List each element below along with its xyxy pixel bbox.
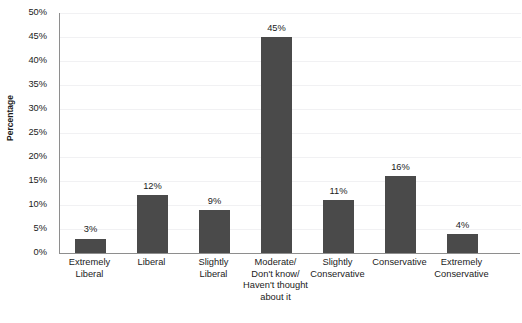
- bar-value-label: 4%: [456, 221, 469, 230]
- bar-group[interactable]: 4%: [447, 13, 478, 253]
- y-tick-label: 25%: [1, 128, 47, 137]
- bar-series: 3%12%9%45%11%16%4%: [60, 13, 521, 253]
- category-label: Extremely Conservative: [416, 257, 508, 280]
- bar-value-label: 3%: [84, 225, 97, 234]
- bar-value-label: 12%: [143, 182, 162, 191]
- bar[interactable]: [323, 200, 354, 253]
- bar[interactable]: [199, 210, 230, 253]
- bar-chart: Percentage 0%5%10%15%20%25%30%35%40%45%5…: [0, 0, 522, 323]
- y-tick-label: 20%: [1, 152, 47, 161]
- bar-group[interactable]: 11%: [323, 13, 354, 253]
- bar-group[interactable]: 12%: [137, 13, 168, 253]
- bar[interactable]: [261, 37, 292, 253]
- x-axis-line: [59, 253, 520, 254]
- plot-area: 3%12%9%45%11%16%4%: [59, 13, 521, 253]
- x-axis-category-labels: Extremely LiberalLiberalSlightly Liberal…: [0, 257, 522, 323]
- y-tick-label: 35%: [1, 80, 47, 89]
- bar-group[interactable]: 3%: [75, 13, 106, 253]
- bar-value-label: 9%: [208, 197, 221, 206]
- y-tick-label: 10%: [1, 200, 47, 209]
- y-tick-label: 45%: [1, 32, 47, 41]
- bar[interactable]: [75, 239, 106, 253]
- bar[interactable]: [137, 195, 168, 253]
- bar-value-label: 45%: [267, 24, 286, 33]
- chart-title: [0, 0, 522, 4]
- y-tick-label: 5%: [1, 224, 47, 233]
- y-tick-label: 15%: [1, 176, 47, 185]
- bar-value-label: 16%: [391, 163, 410, 172]
- bar-group[interactable]: 45%: [261, 13, 292, 253]
- bar[interactable]: [385, 176, 416, 253]
- bar[interactable]: [447, 234, 478, 253]
- bar-group[interactable]: 16%: [385, 13, 416, 253]
- y-tick-label: 50%: [1, 8, 47, 17]
- y-tick-label: 40%: [1, 56, 47, 65]
- bar-group[interactable]: 9%: [199, 13, 230, 253]
- bar-value-label: 11%: [330, 187, 348, 196]
- y-tick-label: 30%: [1, 104, 47, 113]
